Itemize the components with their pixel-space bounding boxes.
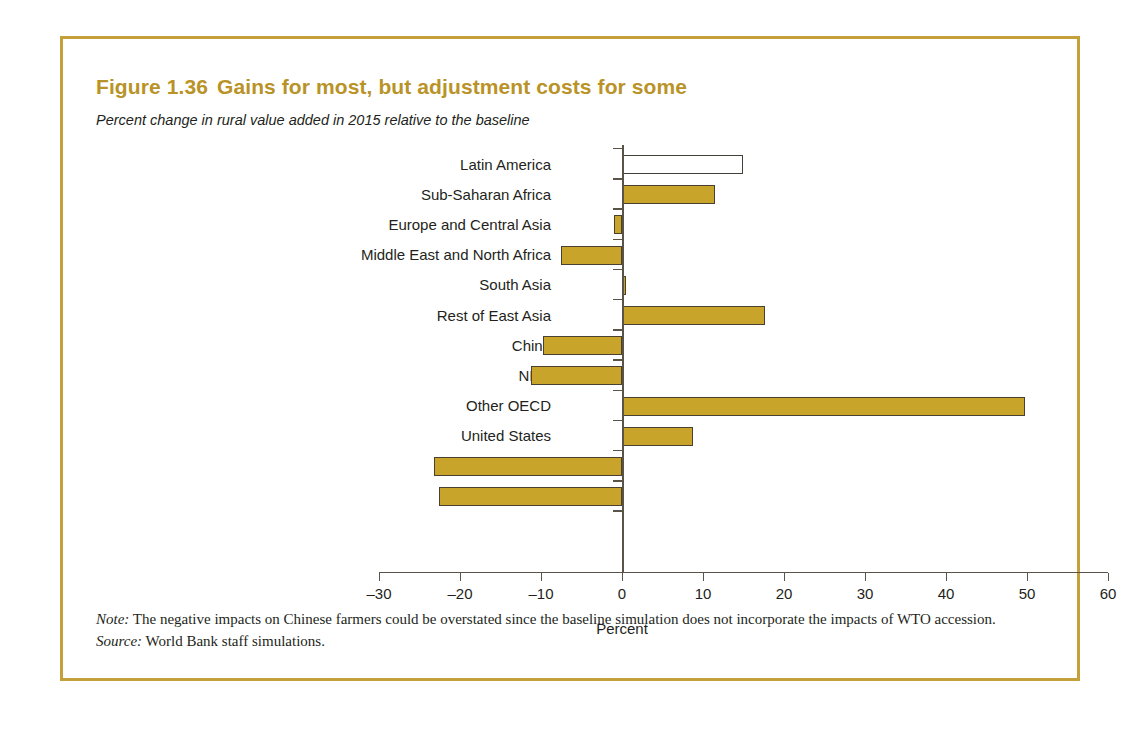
category-axis-tick: [613, 299, 622, 300]
x-axis-tick-label: –10: [511, 585, 571, 602]
note-text: The negative impacts on Chinese farmers …: [133, 611, 996, 627]
figure-footnotes: Note: The negative impacts on Chinese fa…: [96, 609, 1044, 652]
bar-united-states: [622, 427, 693, 446]
category-axis-tick: [613, 480, 622, 481]
figure-title-text: Gains for most, but adjustment costs for…: [217, 75, 687, 98]
figure-note: Note: The negative impacts on Chinese fa…: [96, 609, 1044, 629]
x-axis-tick: [1108, 573, 1109, 581]
x-axis-tick: [784, 573, 785, 581]
bar-japan: [434, 457, 622, 476]
bar-sub-saharan-africa: [622, 185, 715, 204]
figure-number: Figure 1.36: [96, 75, 208, 98]
figure-subtitle: Percent change in rural value added in 2…: [96, 112, 530, 128]
bars-layer: –30–20–100102030405060Percent: [63, 147, 1077, 547]
bar-china: [543, 336, 622, 355]
bar-nies: [531, 366, 622, 385]
x-axis-tick-label: 30: [835, 585, 895, 602]
x-axis-tick-label: 40: [916, 585, 976, 602]
x-axis-tick-label: 20: [754, 585, 814, 602]
note-label: Note:: [96, 611, 129, 627]
figure-panel: Figure 1.36Gains for most, but adjustmen…: [60, 36, 1080, 681]
x-axis-tick-label: 50: [997, 585, 1057, 602]
x-axis-tick: [865, 573, 866, 581]
category-axis-tick: [613, 359, 622, 360]
bar-latin-america: [622, 155, 743, 174]
category-axis-tick: [613, 269, 622, 270]
bar-europe: [439, 487, 622, 506]
chart-plot-area: Latin AmericaSub-Saharan AfricaEurope an…: [63, 147, 1077, 587]
zero-axis-line: [622, 145, 624, 572]
category-axis-tick: [613, 148, 622, 149]
x-axis-tick-label: 0: [592, 585, 652, 602]
x-axis-tick: [541, 573, 542, 581]
x-axis-tick: [703, 573, 704, 581]
bar-other-oecd: [622, 397, 1025, 416]
bar-rest-of-east-asia: [622, 306, 765, 325]
category-axis-tick: [613, 510, 622, 511]
category-axis-tick: [613, 208, 622, 209]
x-axis-tick: [1027, 573, 1028, 581]
x-axis-tick: [946, 573, 947, 581]
bar-middle-east-and-north-africa: [561, 246, 622, 265]
x-axis-tick: [460, 573, 461, 581]
category-axis-tick: [613, 239, 622, 240]
x-axis-tick-label: –30: [349, 585, 409, 602]
category-axis-tick: [613, 420, 622, 421]
x-axis-line: [379, 572, 1108, 573]
x-axis-tick-label: –20: [430, 585, 490, 602]
source-text: World Bank staff simulations.: [146, 633, 325, 649]
x-axis-tick-label: 60: [1078, 585, 1138, 602]
category-axis-tick: [613, 178, 622, 179]
category-axis-tick: [613, 450, 622, 451]
bar-europe-and-central-asia: [614, 215, 622, 234]
source-label: Source:: [96, 633, 142, 649]
x-axis-tick: [379, 573, 380, 581]
x-axis-tick-label: 10: [673, 585, 733, 602]
category-axis-tick: [613, 329, 622, 330]
page-title: Figure 1.36Gains for most, but adjustmen…: [96, 75, 687, 99]
figure-source: Source: World Bank staff simulations.: [96, 631, 1044, 651]
x-axis-tick: [622, 573, 623, 581]
category-axis-tick: [613, 390, 622, 391]
